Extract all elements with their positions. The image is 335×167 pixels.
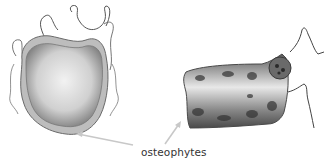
process-outline [288,28,324,128]
arrow-line-right [165,124,179,144]
vertebral-body [26,44,103,127]
pedicle [269,57,291,79]
arrow-head-right [175,121,181,128]
osteophytes-label: osteophytes [141,146,207,158]
vertebral-arch-outline [40,5,109,38]
illustration [0,0,335,167]
vertebra-superior-view [10,5,119,134]
vertebra-lateral-view [184,28,324,128]
arrow-line-left [78,134,133,145]
